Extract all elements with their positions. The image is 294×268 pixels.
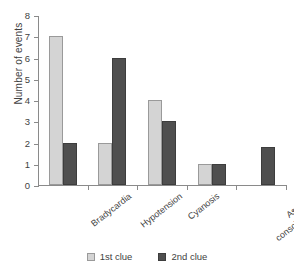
x-tick bbox=[187, 185, 188, 190]
y-tick-label: 5 bbox=[25, 75, 30, 85]
bar-1st-clue bbox=[148, 100, 162, 185]
bar-1st-clue bbox=[98, 143, 112, 186]
y-tick bbox=[34, 80, 39, 81]
bar-2nd-clue bbox=[162, 121, 176, 185]
y-tick bbox=[34, 144, 39, 145]
y-tick-label: 7 bbox=[25, 33, 30, 43]
y-tick-label: 1 bbox=[25, 160, 30, 170]
x-category-label: Cyanosis bbox=[186, 191, 221, 222]
legend-swatch-icon bbox=[87, 253, 95, 261]
x-axis-line bbox=[38, 185, 286, 186]
y-tick bbox=[34, 165, 39, 166]
x-category-label: Hypotension bbox=[139, 191, 185, 230]
y-tick bbox=[34, 16, 39, 17]
x-category-label: Bradycardia bbox=[89, 191, 133, 228]
plot-area: 012345678 bbox=[38, 16, 286, 186]
x-tick bbox=[137, 185, 138, 190]
y-tick-label: 0 bbox=[25, 181, 30, 191]
legend-item-1st-clue: 1st clue bbox=[87, 251, 133, 262]
y-axis-title: Number of events bbox=[13, 0, 24, 134]
y-tick-label: 8 bbox=[25, 11, 30, 21]
x-tick bbox=[286, 185, 287, 190]
legend-label: 1st clue bbox=[100, 251, 133, 262]
chart-legend: 1st clue2nd clue bbox=[0, 251, 294, 262]
y-tick-label: 6 bbox=[25, 54, 30, 64]
x-tick bbox=[236, 185, 237, 190]
x-category-label: Loss of consciousness bbox=[246, 191, 294, 260]
bar-chart: Number of events 012345678 BradycardiaHy… bbox=[0, 0, 294, 268]
y-tick-label: 4 bbox=[25, 96, 30, 106]
bar-2nd-clue bbox=[261, 147, 275, 185]
bar-1st-clue bbox=[198, 164, 212, 185]
bar-2nd-clue bbox=[112, 58, 126, 186]
y-tick bbox=[34, 59, 39, 60]
legend-label: 2nd clue bbox=[171, 251, 207, 262]
y-tick bbox=[34, 122, 39, 123]
y-tick-label: 2 bbox=[25, 139, 30, 149]
legend-item-2nd-clue: 2nd clue bbox=[158, 251, 207, 262]
bar-2nd-clue bbox=[63, 143, 77, 186]
y-tick bbox=[34, 186, 39, 187]
x-tick bbox=[88, 185, 89, 190]
bar-1st-clue bbox=[49, 36, 63, 185]
bar-2nd-clue bbox=[212, 164, 226, 185]
y-tick-label: 3 bbox=[25, 118, 30, 128]
y-tick bbox=[34, 37, 39, 38]
legend-swatch-icon bbox=[158, 253, 166, 261]
y-tick bbox=[34, 101, 39, 102]
